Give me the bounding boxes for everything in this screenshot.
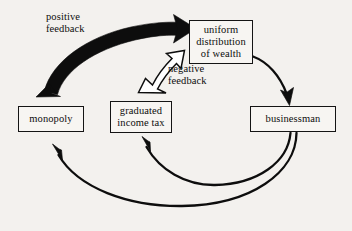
edge-label-negative-feedback: negative feedback bbox=[168, 63, 207, 88]
diagram-canvas: uniform distribution of wealth monopoly … bbox=[0, 0, 352, 231]
node-label-businessman: businessman bbox=[266, 113, 321, 125]
node-label-graduated-income-tax: graduated income tax bbox=[117, 105, 164, 129]
node-monopoly[interactable]: monopoly bbox=[18, 106, 84, 132]
arrow-businessman-to-graduated-income-tax bbox=[142, 133, 291, 185]
edge-label-positive-feedback: positive feedback bbox=[46, 11, 85, 36]
node-graduated-income-tax[interactable]: graduated income tax bbox=[110, 101, 172, 133]
arrow-uniform-distribution-to-businessman bbox=[253, 57, 294, 106]
node-businessman[interactable]: businessman bbox=[250, 106, 336, 132]
arrow-businessman-to-monopoly bbox=[53, 133, 297, 206]
node-label-monopoly: monopoly bbox=[29, 113, 72, 125]
node-label-uniform-distribution-of-wealth: uniform distribution of wealth bbox=[196, 24, 246, 59]
node-uniform-distribution-of-wealth[interactable]: uniform distribution of wealth bbox=[189, 20, 253, 64]
